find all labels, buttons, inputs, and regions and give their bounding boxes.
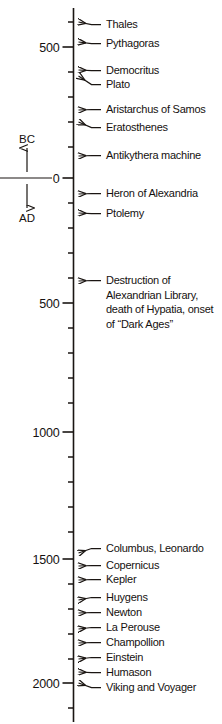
event-leader-arrow-icon: [79, 42, 102, 44]
major-tick-group: [63, 47, 74, 683]
event-leader-arrow-icon: [79, 580, 102, 581]
event-label: Columbus, Leonardo: [106, 542, 204, 554]
event-label: Viking and Voyager: [106, 681, 197, 693]
timeline-event[interactable]: Eratosthenes: [79, 121, 169, 133]
timeline-event[interactable]: Kepler: [79, 573, 137, 585]
event-group: ThalesPythagorasDemocritusPlatoAristarch…: [79, 18, 214, 693]
timeline-event[interactable]: Newton: [79, 606, 142, 618]
event-leader-arrow-icon: [79, 566, 102, 567]
tick-label-group: 5000500100015002000: [32, 41, 59, 691]
event-leader-arrow-icon: [79, 194, 102, 195]
timeline-event[interactable]: Destruction ofAlexandrian Library,death …: [79, 274, 214, 330]
timeline-event[interactable]: Columbus, Leonardo: [79, 542, 204, 554]
event-label: Destruction ofAlexandrian Library,death …: [106, 274, 214, 330]
event-leader-arrow-icon: [79, 613, 102, 614]
event-label: Plato: [106, 78, 130, 90]
event-leader-arrow-icon: [79, 658, 102, 660]
timeline-event[interactable]: Thales: [79, 18, 139, 30]
timeline-event[interactable]: Einstein: [79, 651, 144, 663]
timeline-event[interactable]: Viking and Voyager: [79, 681, 197, 693]
timeline-event[interactable]: Humason: [79, 666, 152, 678]
timeline-event[interactable]: Pythagoras: [79, 37, 160, 49]
event-label: Eratosthenes: [106, 121, 169, 133]
event-leader-arrow-icon: [79, 683, 102, 688]
timeline-event[interactable]: Copernicus: [79, 559, 160, 571]
event-label: Aristarchus of Samos: [106, 103, 206, 115]
event-leader-arrow-icon: [79, 122, 102, 128]
timeline-diagram: 5000500100015002000 BC AD ThalesPythagor…: [0, 0, 222, 724]
event-leader-arrow-icon: [79, 598, 102, 601]
axis-tick-label: 1500: [32, 553, 59, 567]
event-leader-arrow-icon: [79, 672, 102, 673]
timeline-event[interactable]: Ptolemy: [79, 207, 145, 219]
axis-tick-label: 0: [53, 172, 60, 186]
event-leader-arrow-icon: [79, 156, 102, 157]
event-leader-arrow-icon: [79, 549, 102, 554]
minor-tick-group: [68, 22, 74, 708]
bc-label: BC: [19, 133, 35, 145]
timeline-event[interactable]: Heron of Alexandria: [79, 187, 199, 199]
event-leader-arrow-icon: [79, 110, 102, 111]
axis-tick-label: 500: [39, 41, 60, 55]
timeline-event[interactable]: Plato: [79, 76, 130, 90]
ad-label: AD: [19, 212, 35, 224]
event-label: Antikythera machine: [106, 149, 201, 161]
timeline-event[interactable]: Aristarchus of Samos: [79, 103, 207, 115]
timeline-event[interactable]: Champollion: [79, 636, 165, 648]
event-label: Thales: [106, 18, 138, 30]
event-leader-arrow-icon: [79, 281, 102, 282]
axis-tick-label: 2000: [32, 677, 59, 691]
event-leader-arrow-icon: [79, 643, 102, 644]
event-leader-arrow-icon: [79, 76, 102, 85]
event-label: Newton: [106, 606, 142, 618]
axis-tick-label: 1000: [32, 426, 59, 440]
timeline-event[interactable]: Democritus: [79, 64, 160, 76]
timeline-canvas: 5000500100015002000 BC AD ThalesPythagor…: [0, 0, 222, 724]
event-label: Ptolemy: [106, 207, 145, 219]
event-label: Pythagoras: [106, 37, 160, 49]
event-label: Champollion: [106, 636, 165, 648]
event-label: Huygens: [106, 591, 148, 603]
event-label: Kepler: [106, 573, 137, 585]
event-label: Humason: [106, 666, 151, 678]
timeline-event[interactable]: Antikythera machine: [79, 149, 202, 161]
event-label: Democritus: [106, 64, 160, 76]
event-label: Copernicus: [106, 559, 160, 571]
event-leader-arrow-icon: [79, 213, 102, 214]
event-leader-arrow-icon: [79, 70, 102, 71]
timeline-event[interactable]: Huygens: [79, 591, 149, 603]
axis-tick-label: 500: [39, 297, 60, 311]
event-label: La Perouse: [106, 621, 160, 633]
event-label: Einstein: [106, 651, 143, 663]
event-leader-arrow-icon: [79, 22, 102, 25]
event-label: Heron of Alexandria: [106, 187, 199, 199]
event-leader-arrow-icon: [79, 628, 102, 630]
bc-ad-indicator: BC AD: [0, 133, 52, 224]
timeline-event[interactable]: La Perouse: [79, 621, 160, 633]
